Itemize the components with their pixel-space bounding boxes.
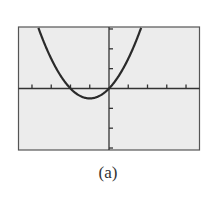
figure-caption: (a) — [0, 163, 206, 183]
graphing-calculator-window — [0, 0, 206, 160]
